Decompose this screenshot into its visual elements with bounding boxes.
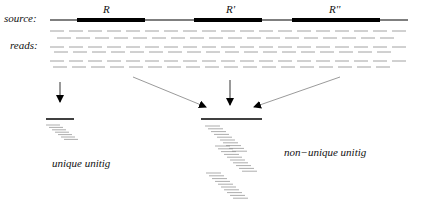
arrow-from-r-icon [133,77,206,107]
non-unique-unitig [201,119,262,198]
unitig-diagram [0,0,424,217]
arrow-from-r-double-prime-icon [254,77,340,107]
arrows [60,77,340,107]
unique-unitig [46,119,78,139]
reads-rows [50,31,406,67]
